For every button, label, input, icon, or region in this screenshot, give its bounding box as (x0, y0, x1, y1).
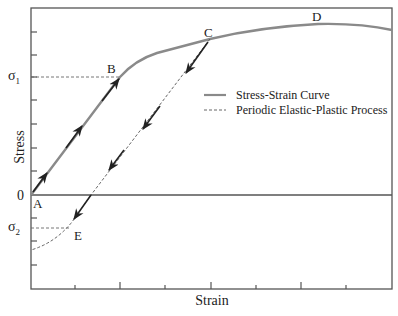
point-label-e: E (74, 228, 82, 243)
point-label-a: A (33, 196, 43, 211)
legend-dashed-label: Periodic Elastic-Plastic Process (236, 103, 388, 117)
point-label-b: B (107, 61, 116, 76)
elastic-plastic-process-curve (31, 39, 210, 250)
stress-strain-chart: A B C D E σ1 0 σ2 Stress Strain Stress-S… (0, 0, 398, 316)
plot-frame (31, 8, 392, 289)
x-axis-ticks (75, 282, 346, 289)
y-label-sigma2: σ2 (8, 219, 20, 237)
y-label-sigma1: σ1 (8, 68, 20, 86)
y-label-zero: 0 (17, 188, 24, 203)
point-label-c: C (204, 25, 213, 40)
legend-solid-label: Stress-Strain Curve (236, 88, 330, 102)
x-axis-title: Strain (195, 293, 228, 308)
point-label-d: D (312, 9, 321, 24)
y-axis-ticks (31, 32, 37, 265)
legend: Stress-Strain Curve Periodic Elastic-Pla… (204, 88, 388, 117)
y-axis-title: Stress (12, 130, 27, 163)
